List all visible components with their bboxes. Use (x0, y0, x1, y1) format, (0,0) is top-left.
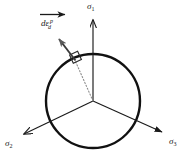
axis-label-sigma1: σ1 (87, 2, 94, 11)
radius-dotted-line (76, 62, 94, 102)
strain-increment-label: dεdp (41, 19, 55, 28)
pi-plane-figure: σ1 σ2 σ3 dεdp (0, 0, 193, 160)
axis-line-sigma3 (93, 101, 162, 132)
axis-label-sigma2: σ2 (5, 139, 12, 148)
strain-label-superscript: p (50, 18, 53, 24)
strain-label-subscript: d (48, 24, 51, 30)
axis-label-sigma3: σ3 (169, 137, 176, 146)
axis-line-sigma2 (24, 101, 93, 134)
strain-increment-vector (59, 39, 76, 61)
stress-space-diagram (0, 0, 193, 160)
